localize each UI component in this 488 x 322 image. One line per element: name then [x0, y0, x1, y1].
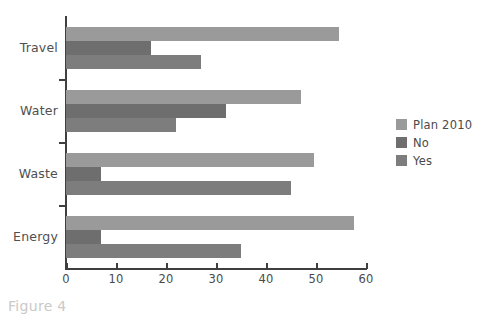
y-axis-tick	[59, 205, 66, 207]
bar-waste-no	[66, 167, 101, 181]
y-axis-tick	[59, 142, 66, 144]
bar-water-plan-2010	[66, 90, 301, 104]
category-label-energy: Energy	[13, 229, 58, 244]
legend-swatch-icon	[396, 119, 407, 130]
bar-travel-no	[66, 41, 151, 55]
x-axis-tick-label: 20	[158, 272, 173, 286]
bar-energy-yes	[66, 244, 241, 258]
category-label-water: Water	[20, 103, 58, 118]
category-label-wrap: Travel	[0, 40, 58, 56]
figure-container: TravelWaterWasteEnergy 0102030405060 Pla…	[0, 0, 488, 322]
x-axis-tick-label: 0	[62, 272, 70, 286]
legend-label: No	[413, 136, 429, 150]
plot-area	[66, 16, 366, 268]
legend-label: Plan 2010	[413, 118, 472, 132]
bar-travel-plan-2010	[66, 27, 339, 41]
category-label-wrap: Waste	[0, 166, 58, 182]
chart-legend: Plan 2010NoYes	[396, 117, 472, 171]
legend-item-plan-2010: Plan 2010	[396, 117, 472, 132]
legend-item-no: No	[396, 135, 472, 150]
bar-energy-no	[66, 230, 101, 244]
bar-water-yes	[66, 118, 176, 132]
legend-swatch-icon	[396, 155, 407, 166]
category-label-travel: Travel	[20, 40, 58, 55]
figure-caption: Figure 4	[8, 298, 67, 314]
bar-waste-plan-2010	[66, 153, 314, 167]
y-axis-tick	[59, 79, 66, 81]
category-label-wrap: Energy	[0, 229, 58, 245]
x-axis-tick-label: 10	[108, 272, 123, 286]
x-axis-tick	[366, 263, 368, 269]
x-axis-tick-label: 40	[258, 272, 273, 286]
x-axis-tick-label: 30	[208, 272, 223, 286]
bar-travel-yes	[66, 55, 201, 69]
category-label-waste: Waste	[19, 166, 58, 181]
legend-swatch-icon	[396, 137, 407, 148]
legend-label: Yes	[413, 154, 432, 168]
legend-item-yes: Yes	[396, 153, 472, 168]
x-axis-tick-label: 60	[358, 272, 373, 286]
bar-waste-yes	[66, 181, 291, 195]
bar-water-no	[66, 104, 226, 118]
x-axis-tick-label: 50	[308, 272, 323, 286]
category-label-wrap: Water	[0, 103, 58, 119]
bar-energy-plan-2010	[66, 216, 354, 230]
